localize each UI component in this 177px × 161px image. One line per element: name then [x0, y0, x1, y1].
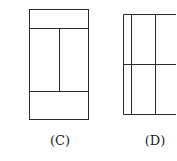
figure-c	[30, 10, 89, 120]
figure-d	[124, 15, 177, 115]
figure-c-label: (C)	[50, 133, 70, 148]
figure-d-label: (D)	[145, 133, 166, 148]
